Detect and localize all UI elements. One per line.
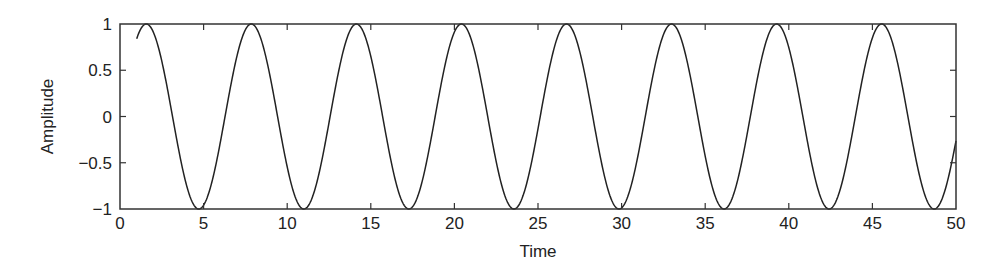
- x-tick-label: 15: [361, 214, 380, 233]
- y-axis-title: Amplitude: [38, 79, 57, 155]
- x-tick-label: 10: [278, 214, 297, 233]
- x-tick-label: 5: [199, 214, 208, 233]
- series-line: [137, 24, 956, 209]
- x-axis-ticks: 05101520253035404550: [115, 24, 965, 233]
- y-tick-label: −0.5: [78, 154, 112, 173]
- chart: 05101520253035404550 10.50−0.5−1 Time Am…: [0, 0, 999, 276]
- x-tick-label: 50: [947, 214, 966, 233]
- x-axis-title: Time: [519, 242, 556, 261]
- x-tick-label: 35: [696, 214, 715, 233]
- y-tick-label: 0.5: [88, 61, 112, 80]
- x-tick-label: 20: [445, 214, 464, 233]
- axes-frame: [120, 24, 956, 209]
- x-tick-label: 40: [779, 214, 798, 233]
- y-tick-label: 0: [103, 108, 112, 127]
- x-tick-label: 30: [612, 214, 631, 233]
- x-tick-label: 0: [115, 214, 124, 233]
- x-tick-label: 45: [863, 214, 882, 233]
- y-tick-label: −1: [93, 200, 112, 219]
- x-tick-label: 25: [529, 214, 548, 233]
- y-tick-label: 1: [103, 15, 112, 34]
